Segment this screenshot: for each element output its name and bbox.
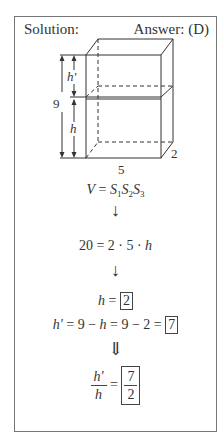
hprime-var2: h <box>100 317 107 332</box>
h-var: h <box>98 293 105 308</box>
front-face <box>86 55 161 158</box>
hprime-expr2: = 9 − 2 = <box>107 317 166 332</box>
ratio-result: h' h = 7 2 <box>14 366 217 405</box>
substituted-equation: 20 = 2 · 5 · h <box>14 238 217 254</box>
answer-fraction: 7 2 <box>124 368 137 403</box>
ratio-denominator: h <box>92 386 105 403</box>
double-down-arrow-icon: ⇓ <box>14 338 217 360</box>
ratio-fraction: h' h <box>91 368 107 403</box>
upper-height-label: h' <box>67 69 77 84</box>
volume-formula: V = S1S2S3 <box>14 182 217 199</box>
formula-s1: S <box>110 182 117 197</box>
down-arrow-icon-2: ↓ <box>14 260 217 281</box>
depth-label: 2 <box>171 146 178 161</box>
substituted-lhs: 20 <box>79 238 93 253</box>
total-height-label: 9 <box>53 96 60 111</box>
answer-denominator: 2 <box>124 386 137 403</box>
answer-numerator: 7 <box>124 368 137 385</box>
formula-lhs: V <box>87 182 96 197</box>
h-result: h = 2 <box>14 292 217 310</box>
hprime-result: h' = 9 − h = 9 − 2 = 7 <box>14 316 217 334</box>
ratio-numerator: h' <box>91 368 107 385</box>
width-label: 5 <box>118 162 125 177</box>
ratio-eq: = <box>107 377 122 392</box>
formula-eq: = <box>99 182 107 197</box>
lower-height-label: h <box>70 121 77 136</box>
down-arrow-icon: ↓ <box>14 200 217 221</box>
h-answer-box: 2 <box>120 292 133 310</box>
substituted-rhs: = 2 · 5 · <box>96 238 145 253</box>
formula-s3: S <box>133 182 140 197</box>
hprime-var: h' <box>53 317 63 332</box>
ratio-answer-box: 7 2 <box>121 366 140 405</box>
formula-s3-sub: 3 <box>140 189 145 199</box>
substituted-var: h <box>145 238 152 253</box>
hprime-answer-box: 7 <box>165 316 178 334</box>
h-eq: = <box>105 293 120 308</box>
hprime-expr1: = 9 − <box>63 317 100 332</box>
